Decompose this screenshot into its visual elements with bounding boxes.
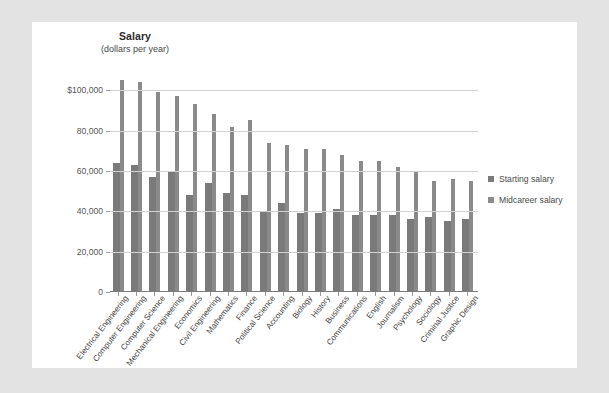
bar-group[interactable] <box>370 70 385 292</box>
bar-midcareer-salary[interactable] <box>451 179 455 292</box>
bar-midcareer-salary[interactable] <box>120 80 124 292</box>
y-axis-tick-mark <box>106 131 110 132</box>
bar-group[interactable] <box>333 70 348 292</box>
bar-group[interactable] <box>168 70 183 292</box>
y-axis-tick-label: $100,000 <box>67 85 103 95</box>
y-axis-tick-mark <box>106 171 110 172</box>
bar-group[interactable] <box>352 70 367 292</box>
bar-midcareer-salary[interactable] <box>340 155 344 292</box>
y-axis-tick-label: 40,000 <box>77 206 103 216</box>
x-axis-line <box>110 291 478 292</box>
bar-group[interactable] <box>462 70 477 292</box>
bar-midcareer-salary[interactable] <box>469 181 473 292</box>
y-axis-tick-mark <box>106 90 110 91</box>
bar-midcareer-salary[interactable] <box>248 120 252 292</box>
bar-midcareer-salary[interactable] <box>359 161 363 292</box>
page-root: Salary (dollars per year) 020,00040,0006… <box>0 0 609 393</box>
y-axis-tick-label: 60,000 <box>77 166 103 176</box>
x-axis-labels: Electrical EngineeringComputer Engineeri… <box>110 294 510 368</box>
bar-starting-salary[interactable] <box>131 165 138 292</box>
bar-group[interactable] <box>407 70 422 292</box>
legend-label: Midcareer salary <box>499 195 563 205</box>
legend-item[interactable]: Starting salary <box>488 174 578 184</box>
bar-midcareer-salary[interactable] <box>396 167 400 292</box>
bar-group[interactable] <box>205 70 220 292</box>
y-axis-tick-mark <box>106 292 110 293</box>
bar-group[interactable] <box>260 70 275 292</box>
bar-group[interactable] <box>223 70 238 292</box>
bars-layer <box>110 70 478 292</box>
gridline <box>110 131 478 132</box>
gridline <box>110 252 478 253</box>
bar-starting-salary[interactable] <box>352 215 359 292</box>
y-axis-tick-label: 20,000 <box>77 247 103 257</box>
bar-group[interactable] <box>389 70 404 292</box>
gridline <box>110 90 478 91</box>
bar-midcareer-salary[interactable] <box>138 82 142 292</box>
bar-starting-salary[interactable] <box>223 193 230 292</box>
chart-title-block: Salary (dollars per year) <box>50 30 220 55</box>
legend-swatch-icon <box>488 176 494 182</box>
bar-group[interactable] <box>278 70 293 292</box>
plot-area: 020,00040,00060,00080,000$100,000 <box>110 70 478 292</box>
bar-group[interactable] <box>113 70 128 292</box>
bar-group[interactable] <box>241 70 256 292</box>
y-axis-tick-mark <box>106 252 110 253</box>
bar-group[interactable] <box>444 70 459 292</box>
bar-starting-salary[interactable] <box>333 209 340 292</box>
bar-midcareer-salary[interactable] <box>175 96 179 292</box>
bar-midcareer-salary[interactable] <box>377 161 381 292</box>
gridline <box>110 171 478 172</box>
bar-starting-salary[interactable] <box>186 195 193 292</box>
salary-bar-chart: Salary (dollars per year) 020,00040,0006… <box>32 22 577 368</box>
bar-starting-salary[interactable] <box>462 219 469 292</box>
bar-midcareer-salary[interactable] <box>193 104 197 292</box>
bar-group[interactable] <box>315 70 330 292</box>
bar-starting-salary[interactable] <box>389 215 396 292</box>
chart-card: Salary (dollars per year) 020,00040,0006… <box>32 22 577 368</box>
legend-item[interactable]: Midcareer salary <box>488 195 578 205</box>
bar-group[interactable] <box>131 70 146 292</box>
bar-midcareer-salary[interactable] <box>230 127 234 292</box>
bar-starting-salary[interactable] <box>315 213 322 292</box>
bar-starting-salary[interactable] <box>297 213 304 292</box>
bar-starting-salary[interactable] <box>444 221 451 292</box>
chart-subtitle: (dollars per year) <box>50 44 220 55</box>
bar-midcareer-salary[interactable] <box>212 114 216 292</box>
y-axis-tick-label: 0 <box>98 287 103 297</box>
bar-midcareer-salary[interactable] <box>432 181 436 292</box>
chart-title: Salary <box>50 30 220 43</box>
bar-starting-salary[interactable] <box>425 217 432 292</box>
legend-swatch-icon <box>488 197 494 203</box>
bar-starting-salary[interactable] <box>205 183 212 292</box>
bar-starting-salary[interactable] <box>113 163 120 292</box>
gridline <box>110 211 478 212</box>
bar-midcareer-salary[interactable] <box>285 145 289 292</box>
y-axis-tick-label: 80,000 <box>77 126 103 136</box>
bar-group[interactable] <box>149 70 164 292</box>
bar-starting-salary[interactable] <box>149 177 156 292</box>
bar-starting-salary[interactable] <box>370 215 377 292</box>
bar-group[interactable] <box>297 70 312 292</box>
chart-legend: Starting salaryMidcareer salary <box>488 174 578 216</box>
bar-midcareer-salary[interactable] <box>414 171 418 292</box>
bar-group[interactable] <box>425 70 440 292</box>
y-axis-tick-mark <box>106 211 110 212</box>
bar-starting-salary[interactable] <box>407 219 414 292</box>
bar-midcareer-salary[interactable] <box>267 143 271 292</box>
bar-starting-salary[interactable] <box>168 171 175 292</box>
bar-midcareer-salary[interactable] <box>156 92 160 292</box>
legend-label: Starting salary <box>499 174 554 184</box>
bar-starting-salary[interactable] <box>241 195 248 292</box>
bar-starting-salary[interactable] <box>278 203 285 292</box>
bar-group[interactable] <box>186 70 201 292</box>
